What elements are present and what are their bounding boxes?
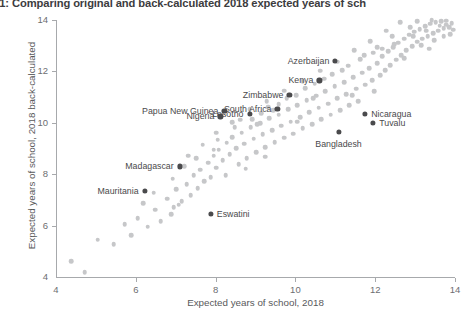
data-point [375, 61, 380, 66]
point-label-tuvalu: Tuvalu [379, 118, 405, 128]
data-point [151, 190, 156, 195]
y-axis-title: Expected years of school, 2018 back-calc… [26, 21, 37, 271]
data-point [444, 18, 449, 23]
data-point [244, 156, 249, 161]
data-point [367, 66, 372, 71]
data-point [404, 48, 409, 53]
data-point [96, 237, 101, 242]
data-point [330, 72, 335, 77]
highlighted-point-tuvalu [371, 120, 376, 125]
data-point [250, 117, 255, 122]
data-point [248, 125, 253, 130]
data-point [396, 40, 401, 45]
data-point [303, 86, 308, 91]
data-point [230, 120, 235, 125]
data-point [388, 63, 393, 68]
data-point [332, 84, 337, 89]
x-tick-6 [136, 278, 137, 282]
y-tick-12 [52, 71, 56, 72]
data-point [276, 112, 281, 117]
x-tick-14 [455, 278, 456, 282]
data-point [430, 18, 435, 23]
data-point [408, 25, 413, 30]
data-point [214, 130, 219, 135]
data-point [230, 135, 235, 140]
data-point [255, 122, 260, 127]
point-label-papua-new-guinea: Papua New Guinea [142, 106, 218, 116]
data-point [185, 182, 190, 187]
data-point [318, 69, 323, 74]
data-point [380, 54, 385, 59]
data-point [307, 110, 312, 115]
x-axis-title: Expected years of school, 2018 [56, 297, 455, 308]
y-tick-10 [52, 123, 56, 124]
data-point [220, 158, 225, 163]
data-point [174, 187, 179, 192]
data-point [363, 82, 368, 87]
data-point [286, 107, 291, 112]
data-point [194, 156, 199, 161]
data-point [145, 225, 150, 230]
x-tick-label-10: 10 [283, 284, 307, 295]
y-tick-14 [52, 20, 56, 21]
data-point [165, 196, 170, 201]
data-point [383, 68, 388, 73]
data-point [189, 193, 194, 198]
x-tick-label-12: 12 [363, 284, 387, 295]
point-label-madagascar: Madagascar [125, 161, 173, 171]
highlighted-point-nicaragua [363, 111, 368, 116]
data-point [442, 34, 447, 39]
data-point [209, 175, 214, 180]
data-point [242, 142, 247, 147]
y-tick-label-4: 4 [26, 271, 48, 282]
data-point [201, 142, 206, 147]
data-point [372, 89, 377, 94]
data-point [135, 216, 140, 221]
data-point [352, 48, 357, 53]
data-point [418, 27, 423, 32]
data-point [392, 42, 397, 47]
data-point [169, 212, 174, 217]
data-point [279, 124, 284, 129]
x-tick-12 [375, 278, 376, 282]
data-point [211, 147, 216, 152]
data-point [431, 31, 436, 36]
data-point [239, 130, 244, 135]
data-point [177, 202, 182, 207]
data-point [191, 173, 196, 178]
data-point [234, 146, 239, 151]
x-tick-10 [295, 278, 296, 282]
data-point [122, 222, 127, 227]
data-point [427, 46, 432, 51]
data-point [448, 32, 453, 37]
data-point [223, 173, 228, 178]
data-point [342, 80, 347, 85]
data-point [310, 122, 315, 127]
data-point [354, 87, 359, 92]
data-point [282, 135, 287, 140]
data-point [153, 207, 158, 212]
data-point [214, 165, 219, 170]
data-point [243, 166, 248, 171]
data-point [198, 167, 203, 172]
data-point [326, 101, 331, 106]
data-point [260, 132, 265, 137]
data-point [323, 89, 328, 94]
data-point [82, 270, 87, 275]
data-point [195, 186, 200, 191]
data-point [304, 98, 309, 103]
highlighted-point-bangladesh [337, 129, 342, 134]
data-point [69, 259, 74, 264]
data-point [356, 99, 361, 104]
data-point [270, 128, 275, 133]
data-point [227, 152, 232, 157]
data-point [254, 150, 259, 155]
highlighted-point-eswatini [208, 211, 213, 216]
data-point [311, 96, 316, 101]
data-point [294, 93, 299, 98]
data-point [291, 131, 296, 136]
x-tick-label-14: 14 [443, 284, 467, 295]
data-point [211, 153, 216, 158]
data-point [362, 53, 367, 58]
data-point [375, 45, 380, 50]
